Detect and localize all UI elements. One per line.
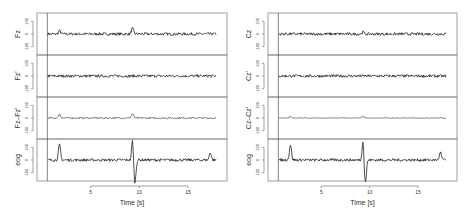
y-tick-label: -100 (255, 84, 260, 93)
x-tick-label: 15 (185, 189, 191, 195)
y-tick-label: -100 (24, 84, 29, 93)
y-axis-label: eog (14, 154, 22, 166)
x-tick-label: 5 (320, 189, 323, 195)
left-chart: -1000100Fz-1000100Fz'-1000100Fz–Fz'-1000… (14, 13, 227, 207)
y-tick-label: 0 (24, 116, 29, 119)
y-axis-label: eog (245, 154, 253, 166)
panel-fz-fz-: -1000100Fz–Fz' (14, 97, 227, 139)
signal-trace (279, 31, 446, 36)
y-tick-label: 100 (255, 17, 260, 24)
eeg-figure: -1000100Fz-1000100Fz'-1000100Fz–Fz'-1000… (0, 0, 469, 218)
y-tick-label: 0 (24, 32, 29, 35)
y-axis-label: Fz (14, 30, 21, 38)
y-tick-label: -100 (255, 126, 260, 135)
panel-eog: -1000100eog (14, 139, 227, 183)
y-tick-label: 0 (255, 116, 260, 119)
signal-trace (48, 27, 216, 35)
y-tick-label: 100 (24, 101, 29, 108)
y-tick-label: 100 (24, 17, 29, 24)
y-axis-label: Cz–Cz' (245, 107, 252, 129)
y-tick-label: 0 (255, 32, 260, 35)
right-chart: -1000100Cz-1000100Cz'-1000100Cz–Cz'-1000… (245, 13, 457, 207)
signal-trace (279, 142, 446, 182)
panel-cz-: -1000100Cz' (245, 55, 457, 97)
y-tick-label: 100 (255, 143, 260, 150)
y-axis-label: Fz' (14, 71, 21, 80)
signal-trace (279, 75, 446, 78)
signal-trace (279, 116, 446, 119)
panel-eog: -1000100eog (245, 139, 457, 182)
x-axis: 51015Time [s] (89, 186, 191, 207)
y-tick-label: -100 (24, 126, 29, 135)
x-axis-label: Time [s] (350, 199, 375, 207)
x-tick-label: 5 (89, 189, 92, 195)
y-tick-label: 0 (24, 158, 29, 161)
y-tick-label: -100 (24, 42, 29, 51)
signal-trace (48, 140, 216, 183)
y-tick-label: 100 (255, 101, 260, 108)
y-tick-label: -100 (255, 168, 260, 177)
y-tick-label: 0 (24, 74, 29, 77)
x-tick-label: 10 (137, 189, 143, 195)
x-tick-label: 15 (415, 189, 421, 195)
signal-trace (48, 114, 216, 119)
y-tick-label: 0 (255, 158, 260, 161)
y-tick-label: 100 (24, 59, 29, 66)
x-axis: 51015Time [s] (320, 186, 421, 207)
panel-cz: -1000100Cz (245, 13, 457, 55)
y-tick-label: 0 (255, 74, 260, 77)
signal-trace (48, 75, 216, 78)
y-tick-label: 100 (24, 143, 29, 150)
y-axis-label: Cz (245, 29, 252, 38)
y-tick-label: 100 (255, 59, 260, 66)
y-tick-label: -100 (255, 42, 260, 51)
x-tick-label: 10 (367, 189, 373, 195)
panel-fz: -1000100Fz (14, 13, 227, 55)
panel-cz-cz-: -1000100Cz–Cz' (245, 97, 457, 139)
panel-fz-: -1000100Fz' (14, 55, 227, 97)
x-axis-label: Time [s] (120, 199, 145, 207)
y-axis-label: Cz' (245, 71, 252, 81)
y-axis-label: Fz–Fz' (14, 108, 21, 129)
y-tick-label: -100 (24, 168, 29, 177)
